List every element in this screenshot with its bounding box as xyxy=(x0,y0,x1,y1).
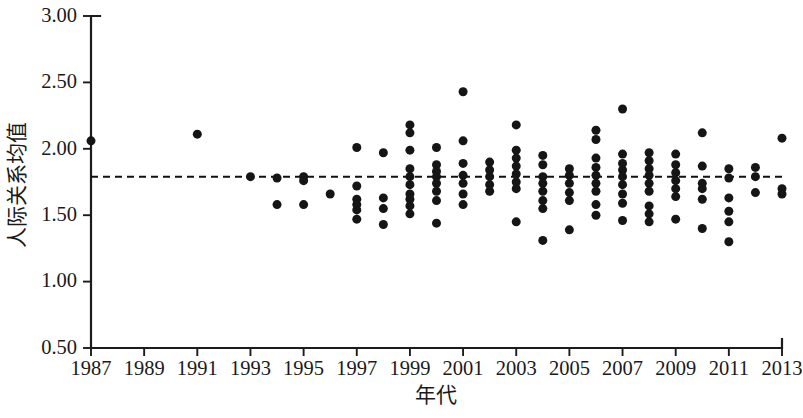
x-tick-label: 1999 xyxy=(389,357,430,379)
data-point xyxy=(459,87,468,96)
data-point xyxy=(379,148,388,157)
data-point xyxy=(538,187,547,196)
data-point xyxy=(485,158,494,167)
data-point xyxy=(485,187,494,196)
data-point xyxy=(405,120,414,129)
x-tick-label: 2001 xyxy=(443,357,484,379)
data-point xyxy=(379,193,388,202)
data-point xyxy=(671,184,680,193)
data-point xyxy=(538,236,547,245)
data-point xyxy=(538,160,547,169)
data-point xyxy=(432,187,441,196)
y-tick-label: 1.00 xyxy=(41,269,77,291)
data-point xyxy=(698,195,707,204)
data-point xyxy=(751,172,760,181)
data-point xyxy=(645,179,654,188)
data-point xyxy=(591,187,600,196)
data-point xyxy=(246,172,255,181)
data-point xyxy=(352,215,361,224)
data-point xyxy=(512,120,521,129)
data-point xyxy=(459,136,468,145)
x-tick-label: 1993 xyxy=(230,357,271,379)
data-point xyxy=(698,162,707,171)
x-tick-label: 2007 xyxy=(602,357,643,379)
data-point-group xyxy=(87,87,787,246)
data-point xyxy=(591,200,600,209)
data-point xyxy=(405,209,414,218)
y-tick-label: 2.50 xyxy=(41,70,77,92)
data-point xyxy=(618,172,627,181)
data-point xyxy=(618,199,627,208)
data-point xyxy=(724,193,733,202)
data-point xyxy=(352,143,361,152)
x-axis-tick-labels: 1987198919911993199519971999200120032005… xyxy=(71,357,803,379)
data-point xyxy=(565,179,574,188)
x-axis-title-text: 年代 xyxy=(415,383,457,407)
data-point xyxy=(459,200,468,209)
data-point xyxy=(352,205,361,214)
data-point xyxy=(538,151,547,160)
data-point xyxy=(273,174,282,183)
data-point xyxy=(618,104,627,113)
y-tick-label: 1.50 xyxy=(41,203,77,225)
x-tick-label: 2003 xyxy=(496,357,537,379)
data-point xyxy=(405,146,414,155)
data-point xyxy=(273,200,282,209)
data-point xyxy=(432,179,441,188)
x-tick-label: 2011 xyxy=(709,357,749,379)
data-point xyxy=(538,204,547,213)
data-point xyxy=(671,215,680,224)
data-point xyxy=(724,217,733,226)
y-tick-label: 0.50 xyxy=(41,336,77,358)
data-point xyxy=(698,224,707,233)
data-point xyxy=(591,163,600,172)
data-point xyxy=(512,184,521,193)
data-point xyxy=(299,200,308,209)
scatter-plot-figure: 人际关系均值 0.501.001.502.002.503.00 19871989… xyxy=(0,0,803,418)
data-point xyxy=(645,187,654,196)
data-point xyxy=(485,172,494,181)
x-tick-label: 2013 xyxy=(762,357,803,379)
data-point xyxy=(512,162,521,171)
data-point xyxy=(538,179,547,188)
y-axis-tick-marks xyxy=(83,16,91,348)
data-point xyxy=(751,188,760,197)
data-point xyxy=(512,146,521,155)
data-point xyxy=(698,128,707,137)
data-point xyxy=(671,150,680,159)
data-point xyxy=(565,171,574,180)
x-tick-label: 1989 xyxy=(124,357,165,379)
data-point xyxy=(724,174,733,183)
data-point xyxy=(379,204,388,213)
data-point xyxy=(405,128,414,137)
x-tick-label: 1997 xyxy=(336,357,377,379)
data-point xyxy=(645,217,654,226)
x-tick-label: 1995 xyxy=(283,357,324,379)
x-tick-label: 1991 xyxy=(177,357,218,379)
data-point xyxy=(645,171,654,180)
data-point xyxy=(512,154,521,163)
x-tick-label: 2009 xyxy=(655,357,696,379)
data-point xyxy=(618,150,627,159)
data-point xyxy=(326,189,335,198)
y-axis-title-text: 人际关系均值 xyxy=(5,122,29,248)
x-tick-label: 2005 xyxy=(549,357,590,379)
data-point xyxy=(591,126,600,135)
y-tick-label: 3.00 xyxy=(41,4,77,26)
data-point xyxy=(724,207,733,216)
data-point xyxy=(645,148,654,157)
data-point xyxy=(671,168,680,177)
data-point xyxy=(778,189,787,198)
data-point xyxy=(671,160,680,169)
x-axis-tick-marks xyxy=(91,348,782,356)
data-point xyxy=(645,156,654,165)
data-point xyxy=(352,181,361,190)
data-point xyxy=(405,201,414,210)
data-point xyxy=(405,172,414,181)
data-point xyxy=(432,143,441,152)
data-point xyxy=(671,192,680,201)
data-point xyxy=(724,164,733,173)
data-point xyxy=(459,189,468,198)
data-point xyxy=(87,136,96,145)
data-point xyxy=(405,164,414,173)
